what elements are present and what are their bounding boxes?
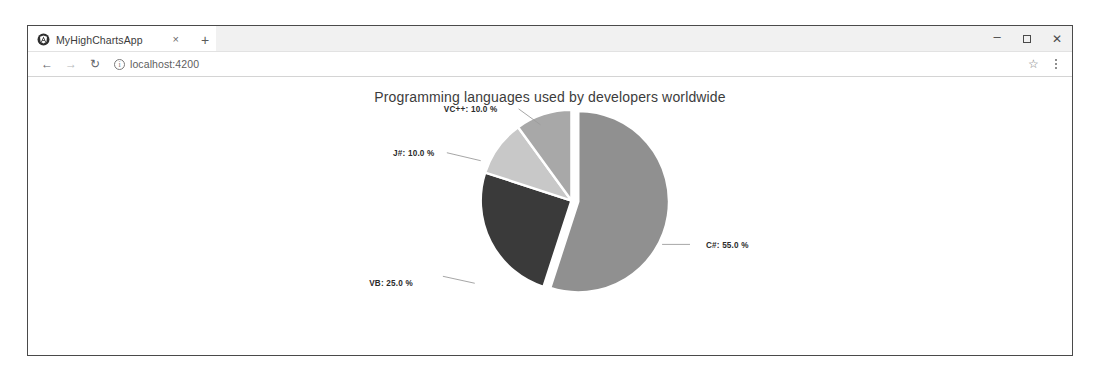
browser-window: MyHighChartsApp × + – ✕ ← → ↻ i localhos… xyxy=(27,25,1073,356)
minimize-icon: – xyxy=(993,30,1000,47)
bookmark-star-icon[interactable]: ☆ xyxy=(1022,53,1044,75)
maximize-button[interactable] xyxy=(1012,26,1042,51)
tab-close-icon[interactable]: × xyxy=(170,34,182,45)
forward-button[interactable]: → xyxy=(60,53,82,75)
pie-leader-line xyxy=(443,276,475,283)
tab-strip: MyHighChartsApp × + – ✕ xyxy=(28,26,1072,52)
maximize-icon xyxy=(1023,35,1031,43)
pie-slice-label: VC++: 10.0 % xyxy=(444,105,498,114)
close-window-button[interactable]: ✕ xyxy=(1042,26,1072,51)
close-icon: ✕ xyxy=(1052,33,1062,45)
kebab-dot xyxy=(1055,59,1057,61)
kebab-dot xyxy=(1055,63,1057,65)
address-bar[interactable]: i localhost:4200 xyxy=(114,55,1020,73)
reload-button[interactable]: ↻ xyxy=(84,53,106,75)
pie-chart: C#: 55.0 %VB: 25.0 %J#: 10.0 %VC++: 10.0… xyxy=(28,77,1072,355)
new-tab-button[interactable]: + xyxy=(194,29,216,51)
page-viewport: Programming languages used by developers… xyxy=(28,77,1072,355)
window-controls: – ✕ xyxy=(982,26,1072,51)
tab-title: MyHighChartsApp xyxy=(56,34,164,46)
browser-tab[interactable]: MyHighChartsApp × xyxy=(28,28,188,51)
tab-strip-empty-area xyxy=(216,26,982,51)
toolbar-right-actions: ☆ xyxy=(1022,53,1066,75)
pie-leader-line xyxy=(447,153,481,161)
kebab-menu-icon[interactable] xyxy=(1046,53,1066,75)
browser-toolbar: ← → ↻ i localhost:4200 ☆ xyxy=(28,52,1072,77)
pie-chart-svg: C#: 55.0 %VB: 25.0 %J#: 10.0 %VC++: 10.0… xyxy=(28,77,1072,355)
back-button[interactable]: ← xyxy=(36,53,58,75)
url-text: localhost:4200 xyxy=(130,58,199,70)
site-info-icon[interactable]: i xyxy=(114,59,125,70)
pie-slice-label: J#: 10.0 % xyxy=(393,149,435,158)
angular-logo-icon xyxy=(37,33,50,46)
kebab-dot xyxy=(1055,67,1057,69)
pie-slice-label: VB: 25.0 % xyxy=(369,279,413,288)
pie-slice-label: C#: 55.0 % xyxy=(706,241,749,250)
pie-slices xyxy=(481,110,669,292)
minimize-button[interactable]: – xyxy=(982,26,1012,51)
